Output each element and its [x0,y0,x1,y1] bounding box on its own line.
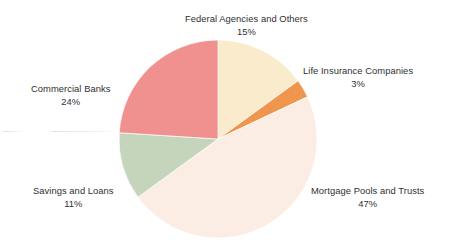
slice-label-savings-and-loans: Savings and Loans 11% [33,185,114,210]
slice-label-savings-and-loans-percent: 11% [33,198,114,211]
slice-label-mortgage-pools: Mortgage Pools and Trusts 47% [311,185,424,210]
slice-label-federal-agencies-name: Federal Agencies and Others [185,13,308,26]
slice-label-commercial-banks-name: Commercial Banks [31,83,110,96]
scan-artifact-line [0,131,118,132]
slice-label-commercial-banks: Commercial Banks 24% [31,83,110,108]
slice-label-life-insurance-percent: 3% [303,78,413,91]
slice-label-commercial-banks-percent: 24% [31,96,110,109]
slice-label-life-insurance: Life Insurance Companies 3% [303,65,413,90]
slice-label-federal-agencies-percent: 15% [185,26,308,39]
slice-label-life-insurance-name: Life Insurance Companies [303,65,413,78]
pie-slice [119,40,218,139]
pie-chart-figure: Federal Agencies and Others 15% Life Ins… [0,0,455,246]
slice-label-mortgage-pools-percent: 47% [311,198,424,211]
slice-label-mortgage-pools-name: Mortgage Pools and Trusts [311,185,424,198]
slice-label-savings-and-loans-name: Savings and Loans [33,185,114,198]
slice-label-federal-agencies: Federal Agencies and Others 15% [185,13,308,38]
